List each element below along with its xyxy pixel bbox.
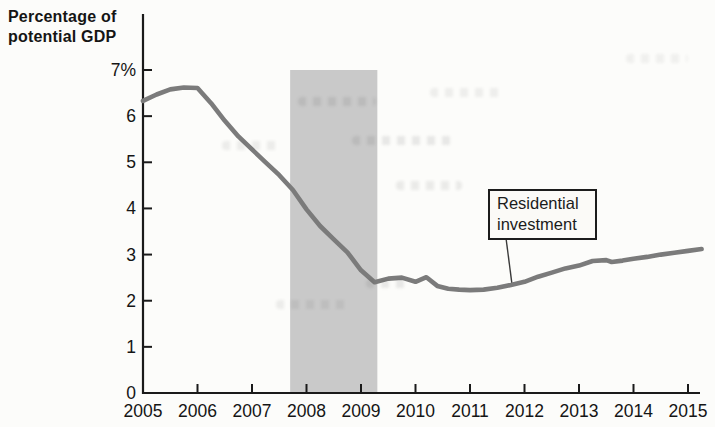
axis-lines: [143, 14, 700, 393]
y-tick-label: 5: [126, 152, 136, 172]
annotation-label: Residential investment: [497, 194, 579, 233]
page-bleedthrough-smudge: [626, 54, 688, 63]
x-tick-label: 2012: [505, 401, 544, 421]
x-tick-label: 2007: [233, 401, 272, 421]
x-tick-label: 2013: [560, 401, 599, 421]
y-tick-label: 6: [126, 106, 136, 126]
page-bleedthrough-smudge: [222, 141, 280, 150]
page-bleedthrough-smudge: [430, 88, 500, 97]
y-tick-label: 0: [126, 383, 136, 403]
x-tick-label: 2011: [451, 401, 489, 421]
page-bleedthrough-smudge: [298, 97, 376, 106]
chart-figure: Percentage of potential GDP 01234567%200…: [0, 0, 715, 427]
x-tick-label: 2010: [396, 401, 435, 421]
x-tick-label: 2009: [342, 401, 381, 421]
x-tick-label: 2006: [178, 401, 217, 421]
y-tick-label: 3: [126, 245, 136, 265]
x-tick-label: 2014: [614, 401, 653, 421]
x-tick-label: 2005: [124, 401, 163, 421]
page-bleedthrough-smudge: [366, 279, 408, 288]
page-bleedthrough-smudge: [352, 136, 452, 145]
y-tick-label: 2: [126, 291, 136, 311]
y-tick-label: 4: [126, 198, 136, 218]
chart-canvas: 01234567%2005200620072008200920102011201…: [0, 0, 715, 427]
x-tick-label: 2015: [669, 401, 708, 421]
x-tick-label: 2008: [287, 401, 326, 421]
recession-band: [290, 70, 377, 393]
callout-pointer-line: [506, 238, 512, 284]
annotation-box: Residential investment: [488, 189, 597, 240]
y-tick-label: 7%: [111, 60, 136, 80]
page-bleedthrough-smudge: [276, 300, 350, 309]
y-tick-label: 1: [126, 337, 136, 357]
page-bleedthrough-smudge: [396, 181, 462, 190]
